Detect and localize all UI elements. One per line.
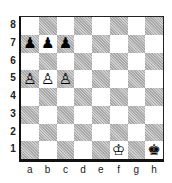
square-a6[interactable] (21, 53, 39, 71)
rank-label-3: 3 (8, 108, 18, 119)
square-g3[interactable] (128, 106, 146, 124)
square-h1[interactable]: ♚ (145, 141, 163, 159)
square-h8[interactable] (145, 17, 163, 35)
square-a5[interactable]: ♙ (21, 70, 39, 88)
square-e4[interactable] (92, 88, 110, 106)
square-c4[interactable] (57, 88, 75, 106)
square-c6[interactable] (57, 53, 75, 71)
square-h5[interactable] (145, 70, 163, 88)
file-label-f: f (110, 164, 128, 175)
square-d1[interactable] (74, 141, 92, 159)
rank-label-5: 5 (8, 72, 18, 83)
square-g8[interactable] (128, 17, 146, 35)
square-e6[interactable] (92, 53, 110, 71)
square-c8[interactable] (57, 17, 75, 35)
square-d4[interactable] (74, 88, 92, 106)
white-pawn-icon[interactable]: ♙ (23, 72, 36, 87)
square-a7[interactable]: ♟ (21, 35, 39, 53)
square-a2[interactable] (21, 124, 39, 142)
black-king-icon[interactable]: ♚ (147, 143, 160, 158)
white-pawn-icon[interactable]: ♙ (41, 72, 54, 87)
square-e2[interactable] (92, 124, 110, 142)
file-label-g: g (128, 164, 146, 175)
square-d7[interactable] (74, 35, 92, 53)
square-b2[interactable] (39, 124, 57, 142)
file-label-b: b (39, 164, 57, 175)
square-f5[interactable] (110, 70, 128, 88)
square-g7[interactable] (128, 35, 146, 53)
square-a3[interactable] (21, 106, 39, 124)
rank-label-8: 8 (8, 19, 18, 30)
square-f3[interactable] (110, 106, 128, 124)
rank-label-2: 2 (8, 126, 18, 137)
square-b7[interactable]: ♟ (39, 35, 57, 53)
square-g5[interactable] (128, 70, 146, 88)
white-king-icon[interactable]: ♔ (112, 143, 125, 158)
square-a4[interactable] (21, 88, 39, 106)
square-e5[interactable] (92, 70, 110, 88)
file-label-a: a (21, 164, 39, 175)
square-f7[interactable] (110, 35, 128, 53)
rank-label-7: 7 (8, 37, 18, 48)
white-pawn-icon[interactable]: ♙ (59, 72, 72, 87)
square-e1[interactable] (92, 141, 110, 159)
rank-label-6: 6 (8, 55, 18, 66)
square-e3[interactable] (92, 106, 110, 124)
square-a1[interactable] (21, 141, 39, 159)
square-c1[interactable] (57, 141, 75, 159)
square-h3[interactable] (145, 106, 163, 124)
rank-label-1: 1 (8, 143, 18, 154)
square-h2[interactable] (145, 124, 163, 142)
square-b1[interactable] (39, 141, 57, 159)
square-b8[interactable] (39, 17, 57, 35)
square-h6[interactable] (145, 53, 163, 71)
black-pawn-icon[interactable]: ♟ (23, 36, 36, 51)
file-label-h: h (145, 164, 163, 175)
square-e8[interactable] (92, 17, 110, 35)
square-c7[interactable]: ♟ (57, 35, 75, 53)
square-d2[interactable] (74, 124, 92, 142)
square-c3[interactable] (57, 106, 75, 124)
square-h4[interactable] (145, 88, 163, 106)
square-b5[interactable]: ♙ (39, 70, 57, 88)
square-d3[interactable] (74, 106, 92, 124)
square-f1[interactable]: ♔ (110, 141, 128, 159)
square-b3[interactable] (39, 106, 57, 124)
square-f6[interactable] (110, 53, 128, 71)
black-pawn-icon[interactable]: ♟ (41, 36, 54, 51)
square-d5[interactable] (74, 70, 92, 88)
square-g1[interactable] (128, 141, 146, 159)
square-c5[interactable]: ♙ (57, 70, 75, 88)
square-g4[interactable] (128, 88, 146, 106)
black-pawn-icon[interactable]: ♟ (59, 36, 72, 51)
square-d8[interactable] (74, 17, 92, 35)
square-c2[interactable] (57, 124, 75, 142)
square-e7[interactable] (92, 35, 110, 53)
chess-board: ♟♟♟♙♙♙♔♚ (19, 16, 164, 162)
square-f8[interactable] (110, 17, 128, 35)
square-h7[interactable] (145, 35, 163, 53)
square-a8[interactable] (21, 17, 39, 35)
file-label-c: c (57, 164, 75, 175)
square-b6[interactable] (39, 53, 57, 71)
rank-label-4: 4 (8, 90, 18, 101)
square-g6[interactable] (128, 53, 146, 71)
square-f4[interactable] (110, 88, 128, 106)
file-label-e: e (92, 164, 110, 175)
square-g2[interactable] (128, 124, 146, 142)
file-label-d: d (74, 164, 92, 175)
square-d6[interactable] (74, 53, 92, 71)
square-f2[interactable] (110, 124, 128, 142)
square-b4[interactable] (39, 88, 57, 106)
